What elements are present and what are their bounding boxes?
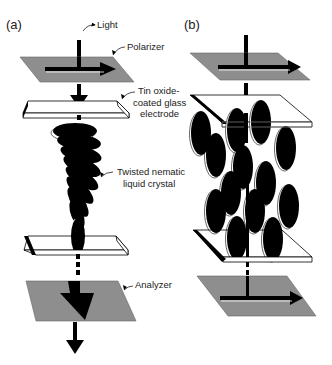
light-exit-arrow xyxy=(66,340,84,354)
panel-b-label: (b) xyxy=(184,17,200,32)
twisted-nematic-lcd-diagram: (a) xyxy=(0,0,332,365)
electrode-label-line1: Tin oxide- xyxy=(138,85,179,96)
polarization-arrow-a xyxy=(45,67,105,71)
analyzer-a xyxy=(26,281,136,321)
polarizer-b xyxy=(190,53,310,80)
polarizer-a xyxy=(20,57,134,82)
lc-label-line2: liquid crystal xyxy=(123,178,175,189)
lc-label-line1: Twisted nematic xyxy=(117,166,185,177)
light-label: Light xyxy=(97,19,118,30)
panel-a-label: (a) xyxy=(6,17,22,32)
analyzer-b xyxy=(197,276,316,316)
panel-b: (b) xyxy=(184,17,316,316)
analyzer-arrow-b xyxy=(220,296,295,300)
analyzer-label: Analyzer xyxy=(135,279,172,290)
glass-electrode-bottom-b xyxy=(193,230,312,275)
twisted-nematic-stack xyxy=(51,123,104,255)
glass-electrode-top-a xyxy=(23,101,129,120)
electrode-label-line3: electrode xyxy=(140,108,179,119)
panel-a: (a) xyxy=(6,17,187,354)
polarization-arrow-b xyxy=(218,65,293,69)
polarizer-label: Polarizer xyxy=(127,41,165,52)
electrode-label-line2: coated glass xyxy=(133,97,187,108)
